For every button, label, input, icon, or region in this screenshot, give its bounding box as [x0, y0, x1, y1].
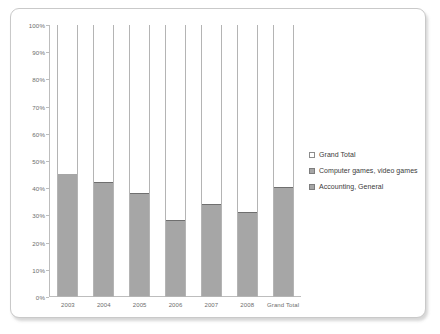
bar-segment[interactable]: [58, 174, 77, 296]
y-axis-tick-mark: [46, 25, 49, 26]
y-axis-tick-mark: [46, 79, 49, 80]
y-axis-tick-mark: [46, 161, 49, 162]
y-axis-tick-mark: [46, 297, 49, 298]
legend-item[interactable]: Computer games, video games: [309, 165, 429, 176]
x-axis-tick-label: 2008: [240, 302, 254, 308]
bar-group[interactable]: 2004: [93, 25, 114, 297]
bar-segment[interactable]: [274, 214, 293, 296]
bar-segment[interactable]: [238, 212, 257, 264]
legend-item-label: Computer games, video games: [319, 167, 418, 174]
legend-item-label: Grand Total: [319, 151, 356, 158]
bar-segment[interactable]: [238, 263, 257, 296]
y-axis-tick-label: 20%: [32, 239, 45, 246]
y-axis-tick-label: 60%: [32, 130, 45, 137]
bar-group[interactable]: 2005: [129, 25, 150, 297]
bar-segment[interactable]: [274, 187, 293, 214]
bar-segment[interactable]: [94, 247, 113, 296]
bar-segment[interactable]: [202, 263, 221, 296]
bar-segment[interactable]: [274, 24, 293, 187]
bar-group[interactable]: 2007: [201, 25, 222, 297]
x-axis-tick-label: 2003: [61, 302, 75, 308]
y-axis-tick-label: 80%: [32, 76, 45, 83]
legend-swatch-icon: [309, 168, 315, 174]
bar-segment[interactable]: [58, 24, 77, 174]
bar-segment[interactable]: [130, 225, 149, 296]
bar-segment[interactable]: [130, 193, 149, 226]
bar-segment[interactable]: [166, 24, 185, 220]
y-axis-tick-label: 70%: [32, 103, 45, 110]
chart-legend: Grand TotalComputer games, video gamesAc…: [309, 149, 429, 197]
y-axis-tick-label: 30%: [32, 212, 45, 219]
y-axis-tick-label: 100%: [29, 22, 45, 29]
legend-swatch-icon: [309, 184, 315, 190]
chart-frame: 0%10%20%30%40%50%60%70%80%90%100% 200320…: [10, 8, 426, 318]
bar-segment[interactable]: [202, 24, 221, 204]
y-axis-tick-mark: [46, 243, 49, 244]
bar-group[interactable]: 2003: [57, 25, 78, 297]
bar-segment[interactable]: [94, 182, 113, 247]
stacked-bar[interactable]: [129, 25, 150, 297]
x-axis-tick-label: 2004: [97, 302, 111, 308]
y-axis-tick-mark: [46, 52, 49, 53]
plot-area: 0%10%20%30%40%50%60%70%80%90%100% 200320…: [49, 25, 301, 297]
bar-series-container: 200320042005200620072008Grand Total: [50, 25, 301, 297]
stacked-bar[interactable]: [273, 25, 294, 297]
legend-item-label: Accounting, General: [319, 183, 383, 190]
bar-group[interactable]: 2008: [237, 25, 258, 297]
legend-item[interactable]: Grand Total: [309, 149, 429, 160]
bar-segment[interactable]: [130, 24, 149, 193]
bar-segment[interactable]: [166, 266, 185, 296]
y-axis-tick-mark: [46, 188, 49, 189]
y-axis-tick-mark: [46, 215, 49, 216]
bar-segment[interactable]: [202, 204, 221, 264]
stacked-bar[interactable]: [93, 25, 114, 297]
stacked-bar[interactable]: [57, 25, 78, 297]
bar-group[interactable]: 2006: [165, 25, 186, 297]
stacked-bar[interactable]: [237, 25, 258, 297]
bar-segment[interactable]: [94, 24, 113, 182]
y-axis-tick-label: 90%: [32, 49, 45, 56]
x-axis-tick-label: 2006: [169, 302, 183, 308]
bar-group[interactable]: Grand Total: [273, 25, 294, 297]
x-axis-tick-label: Grand Total: [267, 302, 299, 308]
legend-swatch-icon: [309, 152, 315, 158]
y-axis-tick-mark: [46, 107, 49, 108]
y-axis-tick-mark: [46, 134, 49, 135]
y-axis-tick-label: 0%: [36, 294, 45, 301]
x-axis-tick-label: 2005: [133, 302, 147, 308]
y-axis-tick-label: 50%: [32, 158, 45, 165]
y-axis-tick-label: 10%: [32, 266, 45, 273]
legend-item[interactable]: Accounting, General: [309, 181, 429, 192]
x-axis-tick-label: 2007: [204, 302, 218, 308]
y-axis-tick-label: 40%: [32, 185, 45, 192]
bar-segment[interactable]: [166, 220, 185, 266]
stacked-bar[interactable]: [201, 25, 222, 297]
stacked-bar[interactable]: [165, 25, 186, 297]
bar-segment[interactable]: [238, 24, 257, 212]
y-axis-tick-mark: [46, 270, 49, 271]
